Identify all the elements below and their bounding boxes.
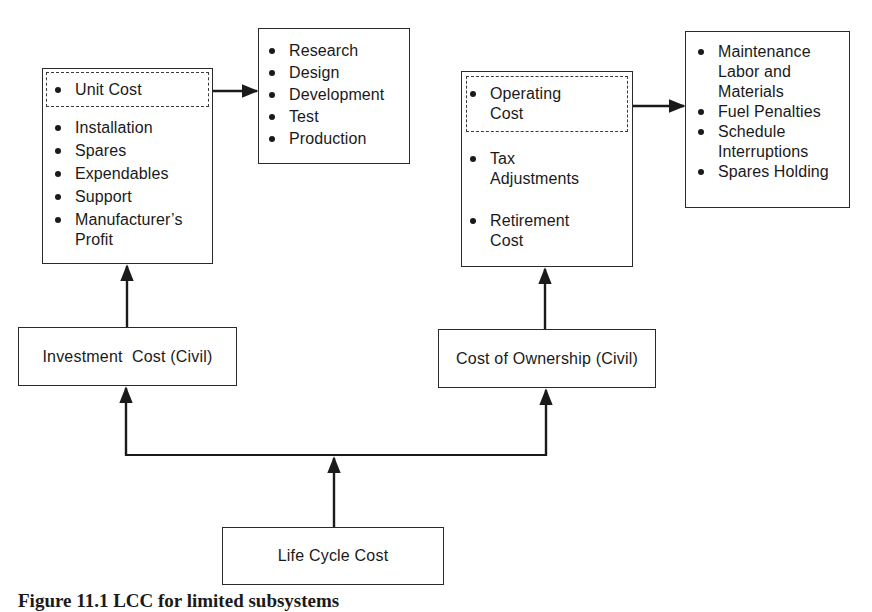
bullet-item: Spares Holding — [692, 162, 829, 182]
life-cycle-cost-label: Life Cycle Cost — [223, 547, 443, 565]
bullet-icon — [269, 70, 275, 76]
bullet-item: Expendables — [49, 164, 183, 184]
investment-items-list: Installation Spares Expendables Support … — [49, 118, 183, 250]
bullet-icon — [55, 171, 61, 177]
bullet-icon — [470, 156, 476, 162]
bullet-icon — [55, 217, 61, 223]
rdte-box: Research Design Development Test Product… — [258, 28, 410, 164]
bullet-icon — [269, 114, 275, 120]
bullet-item: Schedule Interruptions — [692, 122, 829, 162]
life-cycle-cost-node: Life Cycle Cost — [222, 527, 444, 585]
bullet-item: Spares — [49, 141, 183, 161]
ownership-items-list: Tax Adjustments Retirement Cost — [464, 149, 579, 251]
cost-of-ownership-node: Cost of Ownership (Civil) — [438, 329, 656, 388]
bullet-unit-cost: Unit Cost — [49, 80, 142, 100]
investment-cost-label: Investment Cost (Civil) — [19, 348, 236, 366]
bullet-icon — [269, 92, 275, 98]
rdte-items-list: Research Design Development Test Product… — [263, 41, 384, 149]
bullet-icon — [269, 48, 275, 54]
bullet-icon — [269, 136, 275, 142]
bullet-item: Support — [49, 187, 183, 207]
bullet-item: Retirement Cost — [464, 211, 579, 251]
bullet-operating-cost: Operating Cost — [464, 84, 561, 124]
bullet-item: Tax Adjustments — [464, 149, 579, 189]
bullet-icon — [470, 91, 476, 97]
bullet-icon — [698, 109, 704, 115]
bullet-icon — [55, 125, 61, 131]
bullet-icon — [55, 194, 61, 200]
bullet-icon — [55, 87, 61, 93]
bullet-item: Maintenance Labor and Materials — [692, 42, 829, 102]
bullet-item: Installation — [49, 118, 183, 138]
investment-cost-node: Investment Cost (Civil) — [18, 327, 237, 386]
bullet-icon — [55, 148, 61, 154]
bullet-item: Fuel Penalties — [692, 102, 829, 122]
figure-caption: Figure 11.1 LCC for limited subsystems — [18, 590, 339, 612]
bullet-icon — [698, 129, 704, 135]
bullet-icon — [698, 169, 704, 175]
bullet-icon — [698, 49, 704, 55]
bullet-item: Production — [263, 129, 384, 149]
bullet-item: Development — [263, 85, 384, 105]
bullet-item: Manufacturer’s Profit — [49, 210, 183, 250]
operating-breakdown-box: Maintenance Labor and Materials Fuel Pen… — [685, 31, 850, 208]
ownership-breakdown-box: Operating Cost Tax Adjustments Retiremen… — [461, 71, 633, 267]
operating-items-list: Maintenance Labor and Materials Fuel Pen… — [692, 42, 829, 182]
bullet-item: Research — [263, 41, 384, 61]
bullet-item: Test — [263, 107, 384, 127]
investment-breakdown-box: Unit Cost Installation Spares Expendable… — [42, 68, 213, 264]
bullet-icon — [470, 218, 476, 224]
cost-of-ownership-label: Cost of Ownership (Civil) — [439, 350, 655, 368]
bullet-item: Design — [263, 63, 384, 83]
